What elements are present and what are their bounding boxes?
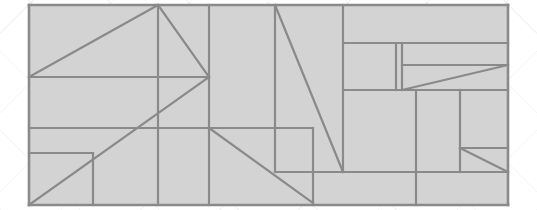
- floorplan-fill-region: [29, 5, 508, 205]
- floorplan-drawing: [0, 0, 537, 210]
- floorplan-canvas: [0, 0, 537, 210]
